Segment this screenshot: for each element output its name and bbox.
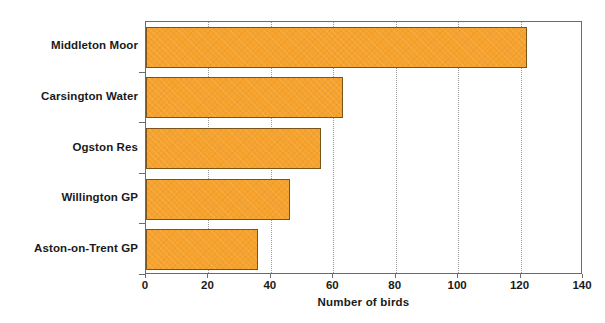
category-label-4: Aston-on-Trent GP (0, 242, 138, 254)
tick-120 (520, 274, 521, 278)
category-label-3: Willington GP (0, 191, 138, 203)
category-axis: Middleton Moor Carsington Water Ogston R… (0, 21, 138, 274)
bar-0 (146, 27, 527, 68)
bar-4 (146, 229, 258, 270)
tick-20 (207, 274, 208, 278)
bar-1 (146, 77, 343, 118)
x-axis-title: Number of birds (145, 296, 582, 308)
tick-140 (582, 274, 583, 278)
value-tick-label-140: 140 (572, 279, 591, 291)
bars-layer (146, 22, 581, 273)
value-tick-label-120: 120 (510, 279, 529, 291)
tick-80 (395, 274, 396, 278)
value-tick-label-80: 80 (388, 279, 401, 291)
bar-3 (146, 179, 290, 220)
value-tick-label-40: 40 (263, 279, 276, 291)
tick-100 (457, 274, 458, 278)
value-tick-label-0: 0 (142, 279, 148, 291)
category-label-2: Ogston Res (0, 141, 138, 153)
value-tick-label-100: 100 (448, 279, 467, 291)
tick-60 (332, 274, 333, 278)
tick-40 (270, 274, 271, 278)
plot-area (145, 21, 582, 274)
value-tick-label-20: 20 (201, 279, 214, 291)
category-label-0: Middleton Moor (0, 39, 138, 51)
tick-0 (145, 274, 146, 278)
category-label-1: Carsington Water (0, 90, 138, 102)
value-tick-label-60: 60 (326, 279, 339, 291)
value-axis-labels: 020406080100120140 (145, 279, 582, 295)
bar-2 (146, 128, 321, 169)
bar-chart: Middleton Moor Carsington Water Ogston R… (0, 0, 605, 323)
